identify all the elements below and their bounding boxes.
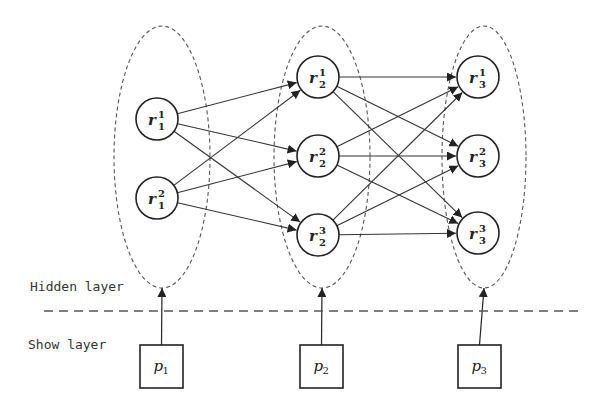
node-label: r xyxy=(309,69,318,87)
node-circle xyxy=(136,177,178,219)
node-superscript: 2 xyxy=(479,146,486,157)
input-arrow xyxy=(322,288,323,345)
node-r2_3: r32 xyxy=(297,214,339,256)
node-subscript: 1 xyxy=(158,121,165,132)
node-r1_2: r21 xyxy=(136,177,178,219)
group-ellipse-1 xyxy=(114,26,210,288)
edge-r2_2-r3_3 xyxy=(337,165,458,223)
node-label: r xyxy=(148,190,157,208)
edge-r2_1-r3_3 xyxy=(333,92,462,218)
node-subscript: 3 xyxy=(479,235,486,246)
node-superscript: 1 xyxy=(158,109,165,120)
node-label: r xyxy=(309,227,318,245)
node-circle xyxy=(297,56,339,98)
input-subscript: 1 xyxy=(163,365,169,376)
node-subscript: 3 xyxy=(479,79,486,90)
node-subscript: 2 xyxy=(319,237,326,248)
node-label: r xyxy=(309,148,318,166)
input-subscript: 3 xyxy=(481,365,487,376)
input-p1: p1 xyxy=(140,345,183,388)
diagram-canvas: r11r21r12r22r32r13r23r33 p1p2p3 Hidden l… xyxy=(0,0,600,413)
node-r3_1: r13 xyxy=(457,56,499,98)
input-boxes: p1p2p3 xyxy=(140,288,501,388)
show-layer-label: Show layer xyxy=(28,337,106,352)
input-subscript: 2 xyxy=(323,365,329,376)
input-p2: p2 xyxy=(300,345,343,388)
node-r2_2: r22 xyxy=(297,135,339,177)
node-circle xyxy=(297,135,339,177)
node-superscript: 3 xyxy=(479,223,486,234)
network-diagram: r11r21r12r22r32r13r23r33 p1p2p3 Hidden l… xyxy=(0,0,600,413)
node-subscript: 2 xyxy=(319,79,326,90)
node-superscript: 1 xyxy=(479,67,486,78)
node-subscript: 3 xyxy=(479,158,486,169)
edge-r1_1-r2_1 xyxy=(177,83,296,114)
node-label: r xyxy=(469,69,478,87)
node-subscript: 1 xyxy=(158,200,165,211)
node-r1_1: r11 xyxy=(136,98,178,140)
node-superscript: 2 xyxy=(319,146,326,157)
node-superscript: 1 xyxy=(319,67,326,78)
node-superscript: 3 xyxy=(319,225,326,236)
input-p3: p3 xyxy=(458,345,501,388)
node-circle xyxy=(457,212,499,254)
edge-r1_2-r2_1 xyxy=(174,90,301,185)
node-label: r xyxy=(469,148,478,166)
hidden-layer-label: Hidden layer xyxy=(30,279,124,294)
node-circle xyxy=(136,98,178,140)
edge-r2_3-r3_3 xyxy=(339,233,456,234)
node-circle xyxy=(457,135,499,177)
node-r3_3: r33 xyxy=(457,212,499,254)
input-arrow xyxy=(162,288,163,345)
node-subscript: 2 xyxy=(319,158,326,169)
node-r3_2: r23 xyxy=(457,135,499,177)
node-label: r xyxy=(469,225,478,243)
node-label: r xyxy=(148,111,157,129)
node-r2_1: r12 xyxy=(297,56,339,98)
node-circle xyxy=(297,214,339,256)
node-superscript: 2 xyxy=(158,188,165,199)
edge-r1_2-r2_2 xyxy=(177,162,296,193)
node-circle xyxy=(457,56,499,98)
input-arrow xyxy=(480,288,485,345)
